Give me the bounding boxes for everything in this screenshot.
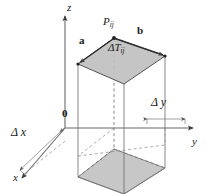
- point-p-subscript: ij: [110, 20, 114, 29]
- y-axis-label: y: [192, 136, 197, 147]
- vector-b-label: b: [137, 25, 143, 36]
- delta-y-label: Δ y: [151, 96, 166, 108]
- vector-a-label: a: [79, 35, 85, 46]
- patch-delta-t-base: ΔT: [108, 41, 121, 53]
- figure-container: z y x 0 Pij ΔTij a b Δ x Δ y: [0, 0, 210, 194]
- delta-x-label: Δ x: [11, 126, 26, 138]
- patch-delta-t-subscript: ij: [121, 46, 125, 55]
- x-axis-label: x: [13, 172, 18, 183]
- patch-delta-t-label: ΔTij: [108, 42, 124, 55]
- delta-x-measure: [20, 128, 64, 174]
- delta-y-measure: [147, 119, 185, 124]
- point-p-base: P: [103, 15, 110, 27]
- base-rectangle-patch: [78, 149, 165, 194]
- diagram-svg: [0, 0, 210, 194]
- origin-label: 0: [62, 108, 68, 119]
- z-axis-label: z: [67, 2, 71, 13]
- point-p-label: Pij: [103, 16, 114, 29]
